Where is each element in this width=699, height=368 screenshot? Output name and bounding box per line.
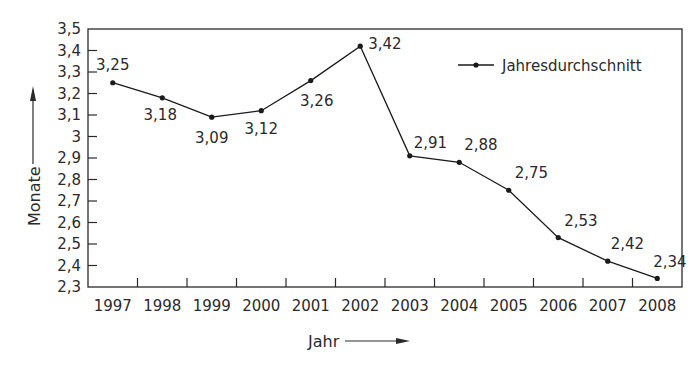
x-tick-label: 2001 (292, 297, 330, 315)
series-jahresdurchschnitt (110, 44, 660, 281)
x-tick-label: 2004 (440, 297, 478, 315)
x-tick-label: 2007 (589, 297, 627, 315)
y-tick-label: 2,5 (57, 235, 81, 253)
legend: Jahresdurchschnitt (458, 57, 642, 75)
data-point-marker (160, 95, 165, 100)
data-point-marker (110, 80, 115, 85)
y-tick-label: 3 (71, 128, 81, 146)
y-tick-label: 3,4 (57, 42, 81, 60)
y-axis-ticks: 2,32,42,52,62,72,82,933,13,23,33,43,5 (57, 20, 97, 296)
data-point-marker (655, 276, 660, 281)
data-label: 2,75 (515, 164, 548, 182)
data-point-marker (308, 78, 313, 83)
data-label: 2,42 (611, 235, 644, 253)
x-tick-label: 1998 (143, 297, 181, 315)
data-label: 3,42 (368, 35, 401, 53)
y-tick-label: 3,3 (57, 63, 81, 81)
x-tick-label: 1997 (94, 297, 132, 315)
data-point-marker (358, 44, 363, 49)
x-tick-label: 2002 (341, 297, 379, 315)
data-point-marker (259, 108, 264, 113)
x-axis-ticks: 1997199819992000200120022003200420052006… (94, 278, 677, 315)
y-tick-label: 3,5 (57, 20, 81, 38)
y-axis-arrow-icon (30, 86, 36, 101)
y-tick-label: 3,1 (57, 106, 81, 124)
y-tick-label: 3,2 (57, 85, 81, 103)
data-label: 2,91 (414, 134, 447, 152)
x-tick-label: 1999 (193, 297, 231, 315)
series-line (113, 46, 658, 278)
x-axis-label: Jahr (307, 332, 340, 351)
x-tick-label: 2008 (638, 297, 676, 315)
y-tick-label: 2,8 (57, 171, 81, 189)
data-point-marker (457, 160, 462, 165)
y-tick-label: 2,9 (57, 149, 81, 167)
line-chart: 2,32,42,52,62,72,82,933,13,23,33,43,5 19… (0, 0, 699, 368)
x-tick-label: 2003 (391, 297, 429, 315)
y-tick-label: 2,3 (57, 278, 81, 296)
x-axis-title: Jahr (307, 332, 410, 351)
data-label: 2,34 (653, 253, 686, 271)
x-tick-label: 2005 (490, 297, 528, 315)
legend-marker-icon (473, 62, 478, 67)
x-tick-label: 2000 (242, 297, 280, 315)
data-point-marker (605, 259, 610, 264)
data-label: 2,53 (564, 212, 597, 230)
data-point-marker (209, 115, 214, 120)
data-point-marker (407, 153, 412, 158)
data-label: 3,12 (245, 120, 278, 138)
y-axis-label: Monate (25, 166, 44, 226)
y-tick-label: 2,6 (57, 214, 81, 232)
data-label: 2,88 (464, 136, 497, 154)
x-tick-label: 2006 (539, 297, 577, 315)
y-tick-label: 2,7 (57, 192, 81, 210)
y-axis-title: Monate (25, 86, 44, 226)
data-label: 3,18 (144, 106, 177, 124)
data-point-marker (506, 188, 511, 193)
data-label: 3,25 (96, 56, 129, 74)
legend-label: Jahresdurchschnitt (501, 57, 642, 75)
data-point-marker (556, 235, 561, 240)
data-label: 3,26 (300, 92, 333, 110)
data-label: 3,09 (195, 129, 228, 147)
y-tick-label: 2,4 (57, 257, 81, 275)
x-axis-arrow-icon (396, 338, 410, 344)
